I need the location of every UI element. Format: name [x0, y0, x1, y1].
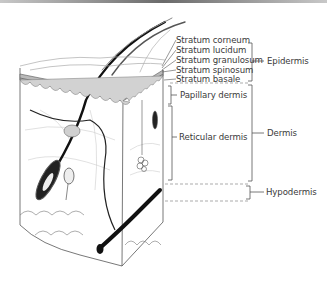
fat-lobules — [20, 211, 161, 245]
label-dermis: Dermis — [267, 128, 297, 138]
label-stratum-granulosum: Stratum granulosum — [176, 55, 263, 65]
label-reticular-dermis: Reticular dermis — [179, 132, 247, 142]
blood-vessel — [100, 190, 160, 248]
skin-surface — [20, 57, 165, 70]
label-papillary-dermis: Papillary dermis — [180, 90, 247, 100]
skin-diagram — [0, 0, 327, 282]
skin-block — [20, 68, 163, 266]
corpuscle — [64, 168, 74, 184]
papillae — [20, 76, 163, 105]
label-epidermis: Epidermis — [267, 56, 309, 66]
sweat-gland — [137, 100, 148, 172]
hair-follicle — [31, 100, 86, 203]
label-stratum-corneum: Stratum corneum — [176, 35, 250, 45]
label-hypodermis: Hypodermis — [266, 187, 317, 197]
label-stratum-basale: Stratum basale — [176, 74, 240, 84]
layer-boundaries — [165, 83, 250, 201]
label-stratum-lucidum: Stratum lucidum — [176, 45, 246, 55]
sebaceous-gland — [64, 125, 80, 137]
gland-dark — [153, 111, 158, 129]
